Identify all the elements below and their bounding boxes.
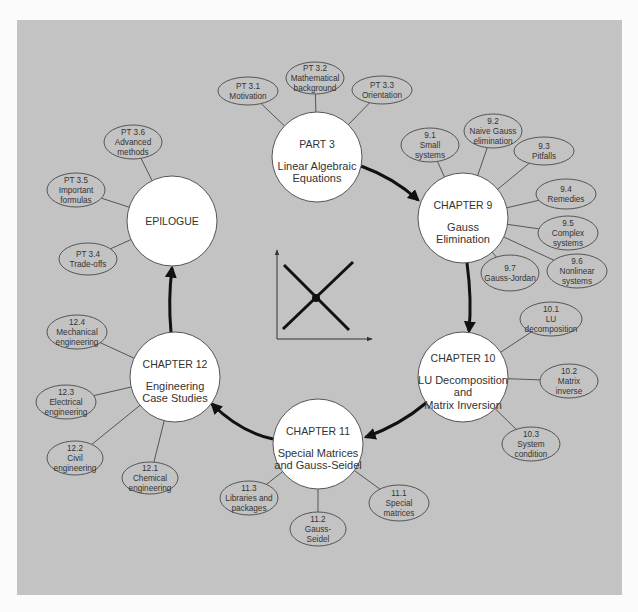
node-title: CHAPTER 10: [431, 352, 496, 364]
flow-arrow-ch11-to-ch12: [212, 404, 273, 439]
node-circle: [273, 399, 363, 489]
connector-line: [437, 161, 444, 177]
bubble-label: 9.2: [487, 117, 499, 126]
flow-arrow-ch12-to-epilogue: [170, 268, 172, 332]
bubble-label: Trade-offs: [70, 260, 107, 269]
subtopic-bubble: 10.1LUdecomposition: [520, 302, 582, 336]
bubble-label: Matrix: [558, 377, 580, 386]
node-title: PART 3: [299, 138, 335, 150]
bubble-label: 11.2: [310, 515, 326, 524]
bubble-label: Electrical: [49, 398, 82, 407]
bubble-label: methods: [117, 148, 148, 157]
node-subtitle: Special Matrices: [278, 447, 359, 459]
bubble-label: 9.3: [538, 142, 550, 151]
connector-line: [492, 252, 496, 257]
node-subtitle: Engineering: [146, 380, 205, 392]
bubble-label: Chemical: [133, 474, 167, 483]
connector-line: [478, 148, 488, 176]
chapter-roadmap-diagram: PT 3.1MotivationPT 3.2Mathematicalbackgr…: [0, 0, 638, 612]
bubble-label: 10.2: [561, 367, 577, 376]
bubble-label: engineering: [129, 484, 172, 493]
bubble-label: Gauss-: [305, 525, 332, 534]
node-subtitle: Gauss: [447, 221, 479, 233]
node-circle: [418, 173, 508, 263]
bubble-label: Mechanical: [56, 328, 98, 337]
connector-line: [498, 163, 530, 189]
subtopic-bubble: 11.3Libraries andpackages: [220, 481, 278, 515]
bubble-label: 12.1: [142, 464, 158, 473]
connector-line: [92, 405, 140, 444]
node-subtitle: Equations: [293, 172, 342, 184]
bubble-label: Small: [420, 141, 441, 150]
subtopic-bubble: 9.4Remedies: [536, 179, 596, 209]
subtopic-bubble: 10.2Matrixinverse: [540, 364, 598, 398]
node-title: CHAPTER 11: [286, 425, 350, 437]
bubble-label: Libraries and: [225, 494, 273, 503]
connector-line: [508, 379, 540, 380]
bubble-label: matrices: [384, 509, 415, 518]
node-subtitle: LU Decomposition: [418, 374, 508, 386]
bubble-label: Special: [386, 499, 413, 508]
node-subtitle: Case Studies: [142, 392, 208, 404]
bubble-label: 12.2: [67, 444, 83, 453]
subtopic-bubble: 11.2Gauss-Seidel: [290, 512, 346, 546]
connector-line: [154, 421, 164, 462]
bubble-label: elimination: [473, 137, 513, 146]
chapter-node-ch10: CHAPTER 10LU DecompositionandMatrix Inve…: [418, 332, 508, 422]
bubble-label: Remedies: [548, 195, 585, 204]
flow-arrow-part3-to-ch9: [361, 166, 418, 200]
connector-line: [501, 332, 532, 352]
node-title: CHAPTER 9: [434, 199, 493, 211]
bubble-label: PT 3.3: [370, 81, 394, 90]
bubble-label: Motivation: [229, 92, 267, 101]
connector-line: [100, 343, 134, 359]
subtopic-bubble: PT 3.6Advancedmethods: [104, 125, 162, 159]
node-circle: [272, 112, 362, 202]
bubble-label: inverse: [556, 387, 583, 396]
node-title: EPILOGUE: [145, 215, 199, 227]
bubble-label: Pitfalls: [532, 152, 556, 161]
bubble-label: PT 3.2: [303, 64, 327, 73]
bubble-label: 9.5: [562, 219, 574, 228]
bubble-label: 9.6: [571, 257, 583, 266]
subtopic-bubble: 9.1Smallsystems: [401, 128, 459, 162]
bubble-label: Naive Gauss: [470, 127, 517, 136]
bubble-label: PT 3.5: [64, 176, 88, 185]
subtopic-bubble: PT 3.3Orientation: [352, 76, 412, 104]
intersection-point: [312, 294, 320, 302]
bubble-label: systems: [415, 151, 445, 160]
bubble-label: formulas: [60, 196, 91, 205]
node-subtitle: and Gauss-Seidel: [274, 459, 361, 471]
connector-line: [354, 470, 380, 489]
subtopic-bubble: 12.1Chemicalengineering: [122, 462, 178, 494]
bubble-label: 9.7: [504, 264, 516, 273]
chapter-node-epilogue: EPILOGUE: [127, 176, 217, 266]
subtopic-bubble: 9.5Complexsystems: [538, 216, 598, 250]
bubble-label: packages: [231, 504, 266, 513]
bubble-label: Gauss-Jordan: [484, 274, 536, 283]
subtopic-bubble: 12.3Electricalengineering: [36, 385, 96, 419]
bubble-label: PT 3.4: [76, 250, 100, 259]
bubble-label: Advanced: [115, 138, 152, 147]
chapter-node-ch11: CHAPTER 11Special Matricesand Gauss-Seid…: [273, 399, 363, 489]
connector-line: [94, 387, 131, 396]
bubble-label: decomposition: [525, 325, 578, 334]
bubble-label: condition: [515, 450, 548, 459]
bubble-label: 10.1: [543, 305, 559, 314]
bubble-label: Seidel: [307, 535, 330, 544]
subtopic-bubble: 9.3Pitfalls: [514, 137, 574, 165]
connector-line: [495, 409, 516, 430]
bubble-label: 11.1: [391, 489, 407, 498]
bubble-label: System: [517, 440, 544, 449]
bubble-label: Mathematical: [291, 74, 340, 83]
subtopic-bubble: PT 3.5Importantformulas: [47, 173, 105, 207]
bubble-label: 12.3: [58, 388, 74, 397]
bubble-label: Important: [59, 186, 94, 195]
node-subtitle: Linear Algebraic: [278, 160, 357, 172]
chapter-node-ch9: CHAPTER 9GaussElimination: [418, 173, 508, 263]
connector-line: [266, 472, 282, 485]
bubble-label: 9.1: [424, 131, 436, 140]
bubble-label: engineering: [45, 408, 88, 417]
bubble-label: 12.4: [69, 318, 85, 327]
bubble-label: LU: [546, 315, 557, 324]
